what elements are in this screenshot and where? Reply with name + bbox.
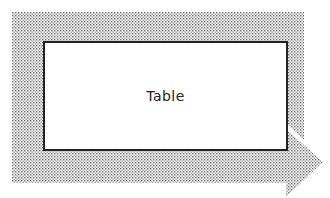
- table-label: Table: [146, 88, 185, 104]
- table-node: Table: [43, 41, 288, 151]
